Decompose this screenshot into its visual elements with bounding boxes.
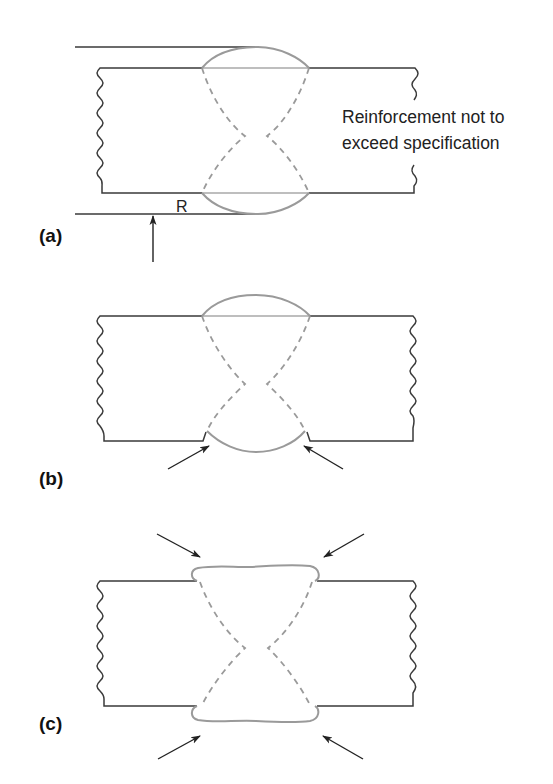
fusion-line-left [200, 582, 245, 705]
dimension-label-r: R [176, 198, 188, 215]
right-plate-lower [309, 165, 417, 193]
fusion-line-right [267, 68, 309, 193]
right-plate [309, 68, 418, 100]
panel-c: (c) [39, 534, 416, 759]
weld-reinforcement-diagram: R Reinforcement not to exceed specificat… [0, 0, 553, 784]
weld-root-concave [207, 431, 305, 452]
fusion-line-left [202, 68, 245, 193]
arrow-icon-top-left [157, 534, 200, 557]
fusion-line-right [267, 316, 310, 431]
left-plate [97, 68, 202, 193]
panel-label-b: (b) [39, 468, 63, 489]
weld-crown-top [202, 295, 310, 316]
panel-b: (b) [39, 295, 416, 489]
fusion-line-right [268, 582, 312, 705]
left-plate [97, 316, 206, 441]
arrow-icon-bottom-right [323, 736, 363, 759]
fusion-line-left [202, 316, 245, 431]
arrow-icon-top-right [324, 534, 364, 557]
weld-crown-top [202, 47, 309, 68]
arrow-icon-left [168, 446, 209, 469]
panel-label-a: (a) [39, 225, 62, 246]
right-plate [307, 316, 416, 441]
annotation-line-2: exceed specification [342, 133, 500, 153]
arrow-icon-bottom-left [158, 736, 200, 759]
right-plate [317, 581, 416, 706]
panel-a: R Reinforcement not to exceed specificat… [39, 47, 504, 262]
arrow-icon-right [304, 446, 343, 469]
panel-label-c: (c) [39, 713, 62, 734]
weld-overlap-bottom [192, 706, 318, 722]
annotation-line-1: Reinforcement not to [342, 107, 504, 127]
left-plate [97, 581, 197, 706]
weld-crown-bottom [202, 193, 309, 214]
weld-overlap-top [192, 565, 319, 581]
